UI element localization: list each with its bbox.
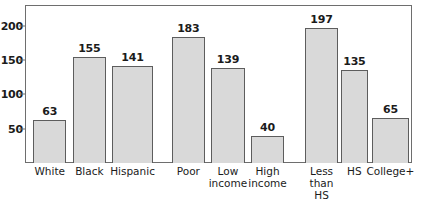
x-axis-labels: WhiteBlackHispanicPoorLow incomeHigh inc… xyxy=(25,165,412,209)
bar-value-label: 63 xyxy=(42,105,57,118)
bar-value-label: 197 xyxy=(310,13,332,26)
bar xyxy=(172,37,205,163)
bar-group-item: 141 xyxy=(112,5,153,163)
bar xyxy=(305,28,338,163)
bar xyxy=(33,120,66,163)
bar-group-item: 155 xyxy=(73,5,106,163)
bar-chart: 20015010050 631551411831394019713565 Whi… xyxy=(0,0,421,209)
x-axis-category-label: High income xyxy=(243,165,292,189)
x-axis-category-label: Hispanic xyxy=(104,165,161,177)
bar-group-item: 135 xyxy=(341,5,368,163)
bar xyxy=(372,118,410,163)
bar-group-item: 183 xyxy=(172,5,205,163)
bar xyxy=(251,136,284,163)
bar-value-label: 40 xyxy=(260,121,275,134)
bar-value-label: 135 xyxy=(343,55,365,68)
bar-group-item: 40 xyxy=(251,5,284,163)
bar-value-label: 183 xyxy=(177,22,199,35)
x-axis-category-label: College+ xyxy=(364,165,418,177)
bar xyxy=(73,57,106,163)
bar xyxy=(112,66,153,163)
bar xyxy=(341,70,368,163)
bars-layer: 631551411831394019713565 xyxy=(25,5,412,163)
bar-group-item: 65 xyxy=(372,5,410,163)
bar xyxy=(211,68,244,163)
bar-value-label: 141 xyxy=(121,51,143,64)
bar-value-label: 155 xyxy=(78,42,100,55)
bar-value-label: 65 xyxy=(383,103,398,116)
bar-group-item: 139 xyxy=(211,5,244,163)
bar-group-item: 63 xyxy=(33,5,66,163)
bar-group-item: 197 xyxy=(305,5,338,163)
bar-value-label: 139 xyxy=(217,53,239,66)
